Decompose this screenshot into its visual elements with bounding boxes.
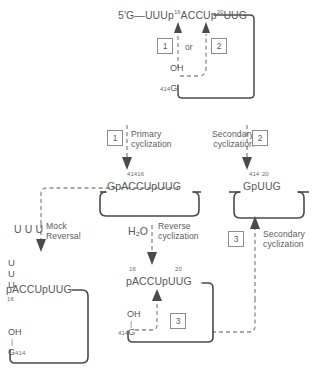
step-box-3-bottom[interactable]: 3 xyxy=(170,313,186,329)
left-product-sequence: pACCUpUUG xyxy=(6,284,72,295)
left-product-number: 16 xyxy=(7,296,14,302)
attack-arrowhead-1 xyxy=(174,22,182,33)
left-product-u2: U xyxy=(8,268,15,279)
center-lariat-num-left: 414 xyxy=(127,171,137,177)
reverse-cyclization-reagent: H₂O xyxy=(128,226,148,237)
step-box-1-primary[interactable]: 1 xyxy=(107,130,123,146)
bottom-product-sequence: pACCUpUUG xyxy=(126,276,192,287)
secondary-cyclization-top-label: Secondary cyclization xyxy=(212,130,254,150)
mock-reversal-feeder xyxy=(41,188,178,224)
bottom-product-num-16: 16 xyxy=(129,266,136,272)
top-sequence-suffix: UUG xyxy=(223,9,247,21)
primary-cyclization-label: Primary cyclization xyxy=(131,130,172,150)
primary-cyclization-line2: cyclization xyxy=(131,140,172,150)
center-lariat-num-right: 16 xyxy=(137,171,144,177)
bottom-product-g414: 414G xyxy=(118,328,135,337)
or-label: or xyxy=(185,43,193,52)
mock-reversal-line2: Reversal xyxy=(46,232,81,242)
right-lariat-num-right: 20 xyxy=(262,171,269,177)
step-box-2-top[interactable]: 2 xyxy=(211,38,227,54)
bottom-product-oh: OH xyxy=(127,310,141,319)
left-product-u1: U xyxy=(8,257,15,268)
center-lariat-loop xyxy=(100,192,199,216)
mock-reversal-label: Mock Reversal xyxy=(46,222,81,242)
reverse-cyclization-arrowhead xyxy=(147,252,157,265)
mock-reversal-arrowhead xyxy=(36,239,46,252)
attack-line-2 xyxy=(180,34,206,76)
reverse-cyclization-label: Reverse cyclization xyxy=(158,222,199,242)
secondary-cyclization-bottom-line2: cyclization xyxy=(263,240,305,250)
top-g-letter: G xyxy=(170,83,177,93)
top-sequence: 5'G—UUUp16ACCUp20UUG xyxy=(118,9,247,20)
secondary-cyclization-top-line2: cyclization xyxy=(212,140,254,150)
bottom-product-num-20: 20 xyxy=(175,266,182,272)
center-lariat-sequence: GpACCUpUUG xyxy=(107,181,181,192)
bottom-product-g: G xyxy=(128,327,135,337)
top-backbone-loop xyxy=(178,15,254,98)
bottom-attack-arrowhead xyxy=(152,289,162,301)
right-lariat-loop xyxy=(234,192,304,218)
left-product-g414: G414 xyxy=(8,348,25,357)
secondary-cyclization-bottom-label: Secondary cyclization xyxy=(263,230,305,250)
left-product-g-number: 414 xyxy=(15,350,25,356)
bottom-feeder-dashed xyxy=(212,300,255,332)
right-lariat-num-left: 414 xyxy=(249,171,259,177)
top-sequence-mid: ACCUp xyxy=(181,9,217,21)
top-g414: 414G xyxy=(160,84,177,93)
left-product-bond: | xyxy=(11,338,13,346)
right-lariat-sequence: GpUUG xyxy=(243,181,281,192)
left-product-oh: OH xyxy=(8,328,22,337)
bottom-product-g-number: 414 xyxy=(118,330,128,336)
right-lariat-numbers: 414 20 xyxy=(249,169,269,178)
top-oh-label: OH xyxy=(170,64,184,73)
reverse-cyclization-line2: cyclization xyxy=(158,232,199,242)
step-box-3-secondary[interactable]: 3 xyxy=(228,231,244,247)
step-box-1-top[interactable]: 1 xyxy=(157,38,173,54)
center-lariat-numbers: 41416 xyxy=(127,169,144,178)
top-label-16: 16 xyxy=(174,9,181,15)
top-sequence-prefix: 5'G—UUUp xyxy=(118,9,174,21)
diagram-canvas: 5'G—UUUp16ACCUp20UUG 1 or 2 OH 414G 1 Pr… xyxy=(0,0,314,379)
attack-arrowhead-2 xyxy=(202,22,210,33)
mock-reversal-reagent: U U U xyxy=(14,224,43,235)
step-box-2-secondary[interactable]: 2 xyxy=(252,130,268,146)
top-g-number: 414 xyxy=(160,86,170,92)
